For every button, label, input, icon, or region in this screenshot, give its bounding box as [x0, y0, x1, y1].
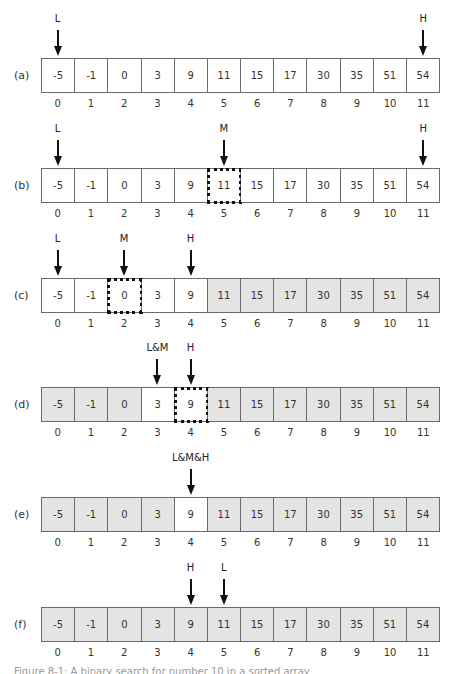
row-label: (d): [14, 398, 40, 411]
pointer-l: L: [28, 123, 88, 166]
pointer-label: H: [187, 342, 195, 354]
array-cell: 51: [374, 279, 407, 312]
array-cell: -1: [75, 279, 108, 312]
array-cell: 54: [407, 279, 439, 312]
arrow-down-icon: [422, 30, 424, 46]
index-label: 3: [141, 647, 174, 658]
pointer-label: H: [420, 13, 428, 25]
sorted-array: -5-103911151730355154: [41, 387, 440, 422]
row-label: (c): [14, 289, 40, 302]
array-cell: -5: [42, 59, 75, 92]
arrowhead-icon: [187, 266, 195, 276]
pointer-label: L: [55, 13, 61, 25]
index-label: 11: [407, 318, 440, 329]
arrowhead-icon: [54, 46, 62, 56]
array-cell-probe: 0: [108, 279, 141, 312]
index-label: 3: [141, 318, 174, 329]
array-cell: 0: [108, 59, 141, 92]
index-label: 6: [241, 98, 274, 109]
index-label: 3: [141, 427, 174, 438]
array-cell: 0: [108, 388, 141, 421]
arrow-down-icon: [223, 140, 225, 156]
index-label: 7: [274, 647, 307, 658]
pointer-h: H: [161, 342, 221, 385]
array-cell: -1: [75, 498, 108, 531]
arrow-down-icon: [422, 140, 424, 156]
index-label: 10: [374, 208, 407, 219]
pointer-l: L: [194, 562, 254, 605]
array-indices: 01234567891011: [41, 647, 440, 658]
index-label: 8: [307, 647, 340, 658]
index-label: 11: [407, 647, 440, 658]
array-cell: 51: [374, 388, 407, 421]
array-indices: 01234567891011: [41, 208, 440, 219]
array-cell: 9: [175, 498, 208, 531]
pointer-label: M: [220, 123, 229, 135]
pointer-l: L: [28, 233, 88, 276]
pointer-label: L: [55, 233, 61, 245]
index-label: 7: [274, 427, 307, 438]
index-label: 11: [407, 208, 440, 219]
index-label: 1: [74, 427, 107, 438]
array-cell: 54: [407, 59, 439, 92]
array-cell: -5: [42, 498, 75, 531]
array-cell: 35: [341, 59, 374, 92]
index-label: 4: [174, 318, 207, 329]
array-cell: 11: [208, 59, 241, 92]
index-label: 0: [41, 647, 74, 658]
index-label: 1: [74, 647, 107, 658]
array-cell: 17: [274, 388, 307, 421]
index-label: 8: [307, 427, 340, 438]
index-label: 7: [274, 98, 307, 109]
index-label: 2: [108, 537, 141, 548]
row-label: (b): [14, 179, 40, 192]
array-indices: 01234567891011: [41, 427, 440, 438]
index-label: 0: [41, 98, 74, 109]
array-cell: 9: [175, 169, 208, 202]
index-label: 2: [108, 427, 141, 438]
array-cell-probe: 11: [208, 169, 241, 202]
index-label: 9: [340, 318, 373, 329]
index-label: 10: [374, 98, 407, 109]
array-indices: 01234567891011: [41, 537, 440, 548]
index-label: 9: [340, 647, 373, 658]
arrow-down-icon: [190, 359, 192, 375]
index-label: 5: [207, 98, 240, 109]
row-label: (f): [14, 618, 40, 631]
arrowhead-icon: [419, 46, 427, 56]
index-label: 9: [340, 208, 373, 219]
index-label: 7: [274, 537, 307, 548]
array-cell: 54: [407, 388, 439, 421]
index-label: 10: [374, 647, 407, 658]
array-cell: 35: [341, 169, 374, 202]
row-label: (a): [14, 69, 40, 82]
pointer-label: L&M&H: [172, 452, 209, 464]
array-cell: 51: [374, 608, 407, 641]
index-label: 4: [174, 647, 207, 658]
figure-caption: Figure 8-1: A binary search for number 1…: [14, 664, 310, 674]
index-label: 2: [108, 318, 141, 329]
array-cell: 11: [208, 388, 241, 421]
array-cell: 9: [175, 59, 208, 92]
sorted-array: -5-103911151730355154: [41, 168, 440, 203]
array-cell: 54: [407, 169, 439, 202]
index-label: 6: [241, 537, 274, 548]
array-cell: 3: [142, 279, 175, 312]
array-cell: 15: [241, 498, 274, 531]
arrowhead-icon: [220, 595, 228, 605]
index-label: 6: [241, 647, 274, 658]
array-cell: 17: [274, 608, 307, 641]
array-cell: 30: [307, 388, 340, 421]
arrow-down-icon: [57, 250, 59, 266]
index-label: 11: [407, 537, 440, 548]
index-label: 10: [374, 537, 407, 548]
array-cell: 54: [407, 498, 439, 531]
array-cell: 35: [341, 608, 374, 641]
index-label: 3: [141, 98, 174, 109]
array-cell: 54: [407, 608, 439, 641]
array-cell: 15: [241, 59, 274, 92]
array-cell: 3: [142, 169, 175, 202]
index-label: 4: [174, 98, 207, 109]
array-cell: 11: [208, 608, 241, 641]
index-label: 5: [207, 427, 240, 438]
